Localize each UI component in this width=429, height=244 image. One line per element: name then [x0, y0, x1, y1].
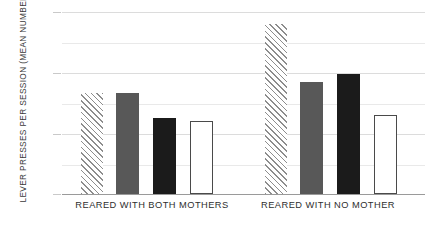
bar-group1-black: [153, 118, 176, 194]
y-axis-title: LEVER PRESSES PER SESSION (MEAN NUMBER): [18, 0, 28, 208]
tick-dash-0: [53, 194, 61, 195]
bar-group2-white: [374, 115, 397, 194]
bar-group2-hatched: [265, 24, 287, 194]
tick-dash-1500: [53, 12, 61, 13]
bar-group1-gray: [116, 93, 139, 194]
gridline-1000: [62, 73, 425, 74]
tick-dash-500: [53, 134, 61, 135]
bar-group1-white: [190, 121, 213, 194]
plot-area: 1,500 1,000 500 0: [62, 12, 425, 195]
gridline-1500: [62, 12, 425, 13]
axis-baseline: [62, 194, 425, 195]
bar-group1-hatched: [81, 93, 103, 194]
bar-group2-black: [337, 74, 360, 194]
bar-chart: LEVER PRESSES PER SESSION (MEAN NUMBER) …: [0, 0, 429, 244]
x-axis-label-group1: REARED WITH BOTH MOTHERS: [62, 200, 242, 210]
x-axis-label-group2: REARED WITH NO MOTHER: [248, 200, 408, 210]
bar-group2-gray: [300, 82, 323, 194]
tick-dash-1000: [53, 73, 61, 74]
gridline-1250: [62, 43, 425, 44]
